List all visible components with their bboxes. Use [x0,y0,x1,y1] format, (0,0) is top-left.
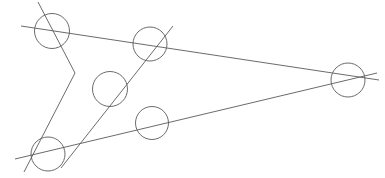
line-steep-upper-segment [38,2,75,73]
circle-center [93,72,128,107]
circles-layer [31,14,365,172]
figure-canvas [0,0,385,178]
line-lower-long [15,73,377,159]
circle-lower-middle [136,107,169,140]
geometric-figure-svg [0,0,385,178]
line-diagonal-rising [61,26,173,168]
